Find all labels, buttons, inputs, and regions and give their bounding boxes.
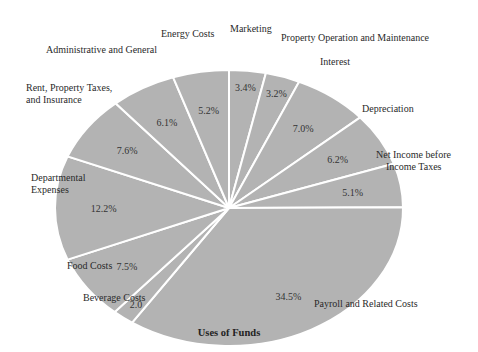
- slice-value-label: 7.5%: [117, 260, 138, 271]
- label-beverage-costs: Beverage Costs: [83, 292, 146, 303]
- label-rent-line2: and Insurance: [26, 94, 82, 105]
- slice-value-label: 3.2%: [266, 87, 287, 98]
- slice-value-label: 6.1%: [157, 116, 178, 127]
- slice-value-label: 6.2%: [327, 153, 348, 164]
- slice-value-label: 3.4%: [235, 82, 256, 93]
- label-net-income-line1: Net Income before: [376, 149, 451, 160]
- label-property-operation: Property Operation and Maintenance: [281, 32, 429, 43]
- chart-title: Uses of Funds: [198, 327, 260, 338]
- label-food-costs: Food Costs: [67, 260, 112, 271]
- label-payroll: Payroll and Related Costs: [314, 298, 418, 309]
- slice-value-label: 34.5%: [275, 290, 301, 301]
- label-interest: Interest: [320, 56, 350, 67]
- slice-value-label: 7.0%: [293, 122, 314, 133]
- label-departmental-line2: Expenses: [31, 184, 69, 195]
- slice-value-label: 5.2%: [198, 104, 219, 115]
- label-rent-line1: Rent, Property Taxes,: [26, 82, 112, 93]
- slice-value-label: 12.2%: [91, 203, 117, 214]
- label-net-income-line2: Income Taxes: [386, 161, 441, 172]
- label-marketing: Marketing: [230, 23, 272, 34]
- slice-value-label: 5.1%: [342, 186, 363, 197]
- label-energy-costs: Energy Costs: [161, 28, 214, 39]
- label-administrative-general: Administrative and General: [46, 44, 157, 55]
- label-departmental-line1: Departmental: [31, 172, 85, 183]
- slice-value-label: 7.6%: [117, 145, 138, 156]
- label-depreciation: Depreciation: [362, 103, 414, 114]
